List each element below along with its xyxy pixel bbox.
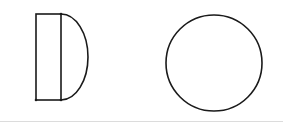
semicircle-shape xyxy=(61,14,88,100)
corner-dot-bottom-left xyxy=(35,99,38,102)
bottom-rule xyxy=(0,121,283,122)
corner-dot-bottom-right xyxy=(60,99,63,102)
rectangle-shape xyxy=(36,14,61,100)
diagram-svg xyxy=(0,0,283,124)
diagram-canvas xyxy=(0,0,283,124)
circle-shape xyxy=(166,15,262,111)
corner-dot-top-right xyxy=(60,13,63,16)
